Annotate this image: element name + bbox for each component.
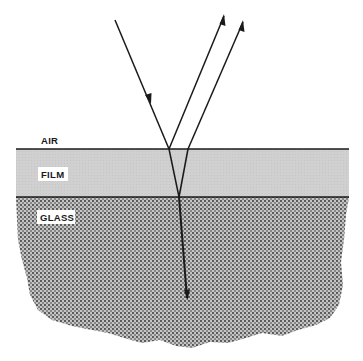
incident-ray: [115, 20, 169, 149]
thin-film-diagram: AIR FILM GLASS: [0, 0, 363, 361]
reflected-arrow-icon-2: [239, 20, 245, 32]
reflected-arrow-icon-1: [220, 14, 226, 26]
reflected-ray-glass-surface: [188, 22, 243, 149]
label-glass: GLASS: [40, 212, 74, 223]
label-film: FILM: [41, 169, 64, 180]
label-air: AIR: [41, 135, 58, 146]
